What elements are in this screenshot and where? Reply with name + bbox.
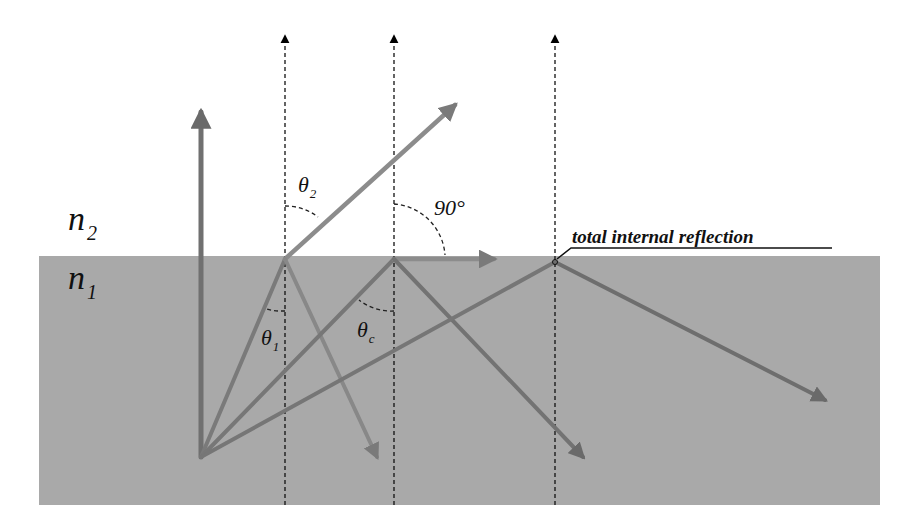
label-n2: n2	[68, 200, 97, 244]
tir-label: total internal reflection	[572, 226, 754, 247]
label-90-degrees: 90°	[434, 195, 465, 220]
arc-theta2	[285, 206, 318, 217]
medium-n1	[39, 256, 880, 505]
tir-diagram: total internal reflection n2 n1 θ2 θ1 θc…	[0, 0, 914, 523]
label-theta2: θ2	[298, 172, 317, 201]
ray-refracted-1	[285, 105, 455, 259]
